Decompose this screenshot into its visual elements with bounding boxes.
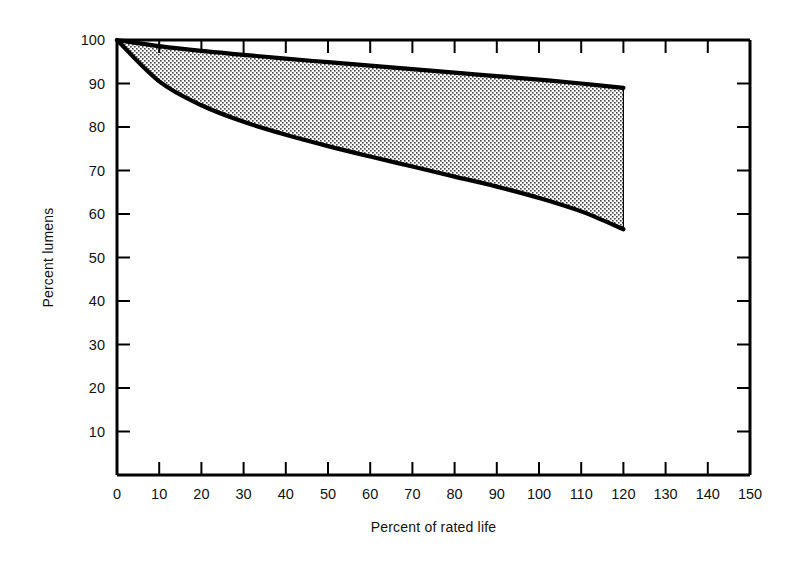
y-tick-label: 60 xyxy=(55,206,105,222)
x-tick-label: 70 xyxy=(404,486,420,502)
x-tick-label: 150 xyxy=(738,486,762,502)
x-tick-label: 60 xyxy=(362,486,378,502)
x-tick-label: 80 xyxy=(447,486,463,502)
y-tick-label: 10 xyxy=(55,424,105,440)
x-tick-label: 10 xyxy=(151,486,167,502)
y-tick-label: 70 xyxy=(55,163,105,179)
x-tick-label: 90 xyxy=(489,486,505,502)
y-tick-label: 40 xyxy=(55,293,105,309)
x-tick-label: 130 xyxy=(653,486,677,502)
y-tick-label: 90 xyxy=(55,76,105,92)
x-tick-label: 20 xyxy=(193,486,209,502)
x-tick-label: 140 xyxy=(696,486,720,502)
y-tick-label: 50 xyxy=(55,250,105,266)
x-tick-label: 40 xyxy=(278,486,294,502)
x-tick-label: 100 xyxy=(527,486,551,502)
x-tick-label: 110 xyxy=(570,486,593,502)
y-tick-label: 80 xyxy=(55,119,105,135)
y-tick-label: 30 xyxy=(55,337,105,353)
x-tick-label: 120 xyxy=(611,486,635,502)
y-tick-label: 100 xyxy=(55,32,105,48)
x-axis-title: Percent of rated life xyxy=(117,519,750,535)
y-axis-title: Percent lumens xyxy=(40,40,56,475)
x-tick-label: 50 xyxy=(320,486,336,502)
x-tick-label: 30 xyxy=(236,486,252,502)
x-tick-label: 0 xyxy=(113,486,121,502)
chart-figure: 102030405060708090100 010203040506070809… xyxy=(0,0,800,571)
y-tick-label: 20 xyxy=(55,380,105,396)
